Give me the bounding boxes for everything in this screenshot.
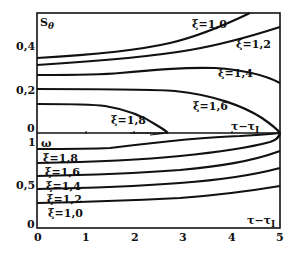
label-upper-xi-1-6: ξ=1,6 <box>193 100 228 113</box>
upper-xlabel: τ−τI <box>231 120 259 135</box>
xtick-2: 2 <box>131 231 139 244</box>
lower-ylabel: ω <box>41 137 52 150</box>
xtick-5: 5 <box>276 231 284 244</box>
chart-figure: Sθ ω 0,4 0,2 0 1 0,5 0 0 1 2 3 4 5 τ−τI … <box>0 0 294 254</box>
upper-ytick-0: 0 <box>27 122 35 135</box>
xtick-3: 3 <box>179 231 187 244</box>
lower-xlabel: τ−τI <box>247 214 275 229</box>
label-upper-xi-1-4: ξ=1,4 <box>218 67 253 80</box>
upper-ytick-0-2: 0,2 <box>16 84 35 97</box>
lower-ytick-0-5: 0,5 <box>16 179 35 192</box>
label-upper-xi-1-2: ξ=1,2 <box>236 38 271 51</box>
upper-ytick-0-4: 0,4 <box>16 40 35 53</box>
label-lower-xi-1-6: ξ=1,6 <box>45 166 80 179</box>
label-lower-xi-1-2: ξ=1,2 <box>47 193 82 206</box>
label-lower-xi-1-8: ξ=1,8 <box>43 152 78 165</box>
lower-ytick-0: 0 <box>27 218 35 231</box>
label-lower-xi-1-4: ξ=1,4 <box>46 180 81 193</box>
label-lower-xi-1-0: ξ=1,0 <box>48 207 83 220</box>
upper-ylabel: Sθ <box>40 16 54 31</box>
xtick-0: 0 <box>34 231 42 244</box>
label-upper-xi-1-8: ξ=1,8 <box>111 114 146 127</box>
label-upper-xi-1-0: ξ=1,0 <box>192 18 227 31</box>
curve-crossing-mark <box>130 133 168 135</box>
curve-upper-xi-1-8 <box>37 104 168 133</box>
xtick-4: 4 <box>228 231 236 244</box>
xtick-1: 1 <box>82 231 90 244</box>
lower-ytick-1: 1 <box>28 136 36 149</box>
